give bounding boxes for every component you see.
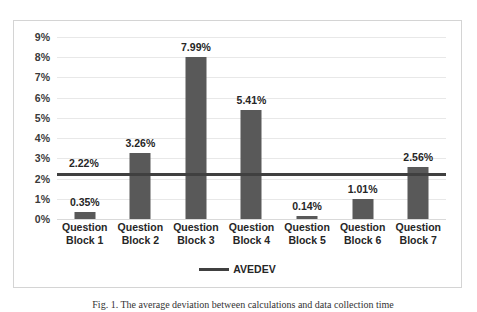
bar[interactable] <box>352 199 373 219</box>
y-tick-label-2%: 2% <box>35 173 50 184</box>
x-axis-category-labels: QuestionBlock 1QuestionBlock 2QuestionBl… <box>57 221 446 246</box>
bar[interactable] <box>241 110 262 219</box>
bar-slot: 0.14% <box>279 37 335 219</box>
y-tick-label-5%: 5% <box>35 113 50 124</box>
chart-container: 0%1%2%3%4%5%6%7%8%9% 0.35%3.26%7.99%5.41… <box>13 20 462 288</box>
bar-value-label: 7.99% <box>181 42 211 53</box>
bar-value-label: 0.35% <box>70 197 100 208</box>
x-category-label-line: Block 4 <box>224 234 280 247</box>
x-category-label-line: Question <box>335 221 391 234</box>
avedev-value-label: 2.22% <box>69 158 99 169</box>
y-tick-label-0%: 0% <box>35 214 50 225</box>
y-tick-label-4%: 4% <box>35 133 50 144</box>
bar-value-label: 2.56% <box>403 152 433 163</box>
x-category-label-line: Block 6 <box>335 234 391 247</box>
x-category-label-line: Question <box>224 221 280 234</box>
x-category-label-7: QuestionBlock 7 <box>390 221 446 246</box>
avedev-legend-line-icon <box>199 268 229 271</box>
bar-slot: 7.99% <box>168 37 224 219</box>
x-category-label-6: QuestionBlock 6 <box>335 221 391 246</box>
x-category-label-line: Question <box>168 221 224 234</box>
y-tick-label-7%: 7% <box>35 72 50 83</box>
bar-slot: 1.01% <box>335 37 391 219</box>
x-category-label-line: Question <box>113 221 169 234</box>
bar[interactable] <box>185 57 206 219</box>
plot-area: 0%1%2%3%4%5%6%7%8%9% 0.35%3.26%7.99%5.41… <box>57 37 446 219</box>
x-category-label-5: QuestionBlock 5 <box>279 221 335 246</box>
x-category-label-line: Question <box>279 221 335 234</box>
bar[interactable] <box>74 212 95 219</box>
y-tick-label-9%: 9% <box>35 32 50 43</box>
bar-value-label: 5.41% <box>237 95 267 106</box>
y-tick-label-8%: 8% <box>35 52 50 63</box>
bar-slot: 5.41% <box>224 37 280 219</box>
y-tick-label-1%: 1% <box>35 194 50 205</box>
chart-legend: AVEDEV <box>14 264 461 275</box>
avedev-legend-label: AVEDEV <box>233 264 275 275</box>
bar[interactable] <box>297 216 318 219</box>
x-category-label-line: Block 1 <box>57 234 113 247</box>
figure-caption: Fig. 1. The average deviation between ca… <box>38 299 448 311</box>
gridline-0% <box>57 219 446 220</box>
bar-slot: 2.56% <box>390 37 446 219</box>
x-category-label-line: Question <box>57 221 113 234</box>
bar-value-label: 0.14% <box>292 201 322 212</box>
bar[interactable] <box>130 153 151 219</box>
x-category-label-line: Block 5 <box>279 234 335 247</box>
y-tick-label-3%: 3% <box>35 153 50 164</box>
bar-value-label: 3.26% <box>125 138 155 149</box>
bar-value-label: 1.01% <box>348 184 378 195</box>
x-category-label-line: Block 7 <box>390 234 446 247</box>
x-category-label-2: QuestionBlock 2 <box>113 221 169 246</box>
x-category-label-line: Question <box>390 221 446 234</box>
y-tick-label-6%: 6% <box>35 92 50 103</box>
x-category-label-3: QuestionBlock 3 <box>168 221 224 246</box>
bar-slot: 0.35% <box>57 37 113 219</box>
x-category-label-line: Block 3 <box>168 234 224 247</box>
x-category-label-1: QuestionBlock 1 <box>57 221 113 246</box>
avedev-line <box>57 173 446 176</box>
x-category-label-line: Block 2 <box>113 234 169 247</box>
x-category-label-4: QuestionBlock 4 <box>224 221 280 246</box>
bar-slot: 3.26% <box>113 37 169 219</box>
